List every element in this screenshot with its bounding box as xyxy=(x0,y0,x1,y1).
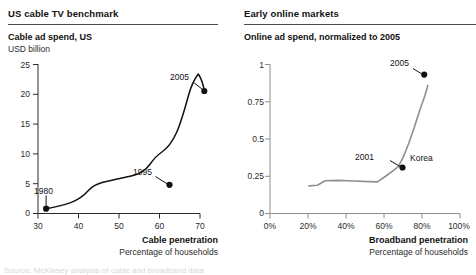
y-tick-label: 25 xyxy=(8,60,30,70)
x-tick-label: 40 xyxy=(69,221,89,231)
marker-2005-right xyxy=(421,72,427,78)
figure-footnote: Source: McKinsey analysis of cable and b… xyxy=(4,266,204,275)
annotation-label-1980: 1980 xyxy=(34,186,53,196)
x-tick-label: 50 xyxy=(109,221,129,231)
series-line-us-cable xyxy=(46,74,204,209)
marker-2005 xyxy=(201,88,207,94)
marker-1995 xyxy=(166,182,172,188)
marker-1980 xyxy=(43,206,49,212)
x-tick-label: 80% xyxy=(408,221,436,231)
x-tick-label: 0% xyxy=(256,221,284,231)
annotation-label-2005: 2005 xyxy=(170,72,189,82)
y-tick-label: 0.75 xyxy=(236,97,264,107)
x-tick-label: 40% xyxy=(332,221,360,231)
y-tick-label: 0 xyxy=(236,208,264,218)
y-tick-label: 0.25 xyxy=(236,171,264,181)
y-tick-label: 0 xyxy=(8,208,30,218)
x-axis-subtitle-left: Percentage of households xyxy=(58,247,218,257)
annotation-label-2001: 2001 xyxy=(355,152,374,162)
y-tick-label: 1 xyxy=(236,60,264,70)
exhibit-early-online-markets: Early online markets Online ad spend, no… xyxy=(236,0,472,275)
marker-2001 xyxy=(399,164,405,170)
series-line-korea xyxy=(309,85,428,185)
chart-cable-ad-spend: 25 20 15 10 5 0 30 40 50 60 70 1980 1995… xyxy=(0,0,236,275)
y-tick-label: 5 xyxy=(8,179,30,189)
x-axis-subtitle-right: Percentage of households xyxy=(298,247,468,257)
x-tick-label: 20% xyxy=(294,221,322,231)
y-tick-label: 0.5 xyxy=(236,134,264,144)
leader-2005 xyxy=(193,82,202,89)
annotation-label-1995: 1995 xyxy=(133,167,152,177)
leader-1995 xyxy=(156,177,168,185)
x-tick-label: 60% xyxy=(370,221,398,231)
x-axis-title-left: Cable penetration xyxy=(78,235,218,245)
x-tick-label: 70 xyxy=(190,221,210,231)
annotation-label-2005: 2005 xyxy=(390,58,409,68)
y-tick-label: 10 xyxy=(8,149,30,159)
x-axis-title-right: Broadband penetration xyxy=(316,235,468,245)
x-tick-label: 60 xyxy=(150,221,170,231)
exhibit-us-cable-tv-benchmark: US cable TV benchmark Cable ad spend, US… xyxy=(0,0,236,275)
y-tick-label: 20 xyxy=(8,89,30,99)
chart-online-ad-spend: 1 0.75 0.5 0.25 0 0% 20% 40% 60% 80% 100… xyxy=(236,0,472,275)
x-tick-label: 100% xyxy=(444,221,474,231)
series-label-korea: Korea xyxy=(410,153,433,163)
x-tick-label: 30 xyxy=(28,221,48,231)
leader-2001 xyxy=(390,161,400,167)
leader-2005-right xyxy=(413,69,421,74)
y-tick-label: 15 xyxy=(8,119,30,129)
